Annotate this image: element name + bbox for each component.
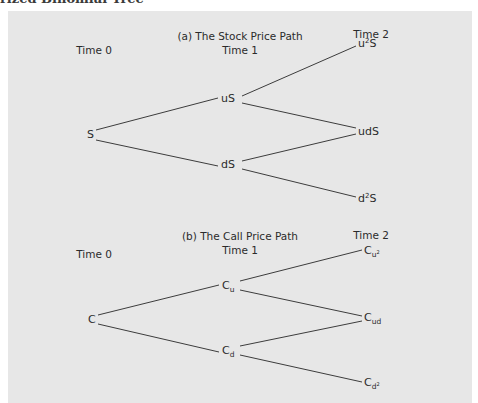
node-cd-base: C [222,344,230,357]
node-us: uS [221,93,235,104]
panel-b-time-0: Time 0 [76,248,112,260]
panel-b-title: (b) The Call Price Path [182,230,298,242]
panel-a-time-0: Time 0 [76,44,112,56]
branch-cd-cud [240,321,362,346]
node-ds: dS [221,159,235,170]
branch-ds-dds [242,169,356,197]
node-dds: d2S [358,193,376,204]
branch-s-ds [96,140,218,166]
node-cuu-subscript-exponent: 2 [376,249,379,255]
node-cud-base: C [364,311,372,324]
branch-cd-cdd [240,355,362,382]
branch-s-us [96,98,218,130]
panel-b-time-1: Time 1 [222,244,258,256]
node-dds-tail: S [369,192,376,205]
node-uus-tail: S [369,37,376,50]
node-cu-base: C [222,279,230,292]
node-dds-base: d [358,192,365,205]
branch-ds-uds [242,134,356,161]
branch-us-uds [242,103,356,128]
branch-us-uus [242,46,356,96]
node-cud-subscript: ud [372,317,382,326]
node-s: S [87,129,94,140]
panel-a-title: (a) The Stock Price Path [177,30,302,42]
node-cd: Cd [222,345,234,359]
branch-cu-cud [240,290,362,316]
panel-b-time-2: Time 2 [353,229,389,241]
node-uds: udS [358,126,379,137]
node-cud: Cud [364,312,381,326]
node-cuu-subscript: u2 [372,250,380,259]
panel-a-time-1: Time 1 [222,44,258,56]
node-cdd-subscript: d2 [372,382,380,391]
branch-c-cu [98,285,219,315]
branch-c-cd [98,324,219,352]
node-cdd: Cd2 [364,377,380,391]
node-cu-subscript: u [230,285,235,294]
node-cu: Cu [222,280,234,294]
node-c: C [88,314,96,325]
node-cd-subscript: d [230,350,235,359]
node-cdd-subscript-exponent: 2 [376,381,379,387]
node-cuu: Cu2 [364,245,380,259]
branch-cu-cuu [240,250,362,281]
node-cdd-base: C [364,376,372,389]
node-uus: u2S [358,38,376,49]
node-cuu-base: C [364,244,372,257]
node-uus-base: u [358,37,365,50]
